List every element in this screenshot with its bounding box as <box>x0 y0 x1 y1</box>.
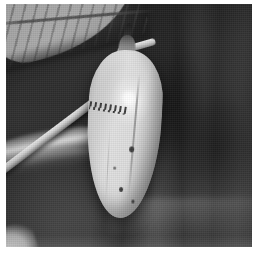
photograph-image <box>6 4 252 247</box>
chrysalis-spot <box>129 146 134 152</box>
chrysalis-body <box>83 48 165 219</box>
chrysalis <box>83 48 165 219</box>
photograph-frame: Black and white close-up photograph of a… <box>0 0 253 253</box>
